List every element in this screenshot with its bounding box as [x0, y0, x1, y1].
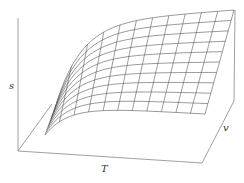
mesh-line-v [51, 52, 222, 119]
x-axis-label: T [101, 163, 108, 174]
mesh-line-v [46, 101, 208, 132]
mesh-line-v [54, 20, 231, 110]
y-axis-label: v [223, 122, 229, 133]
z-axis-label: s [9, 80, 14, 91]
y-axis-line [202, 101, 234, 163]
back-right-edge [234, 10, 235, 101]
back-left-edge [18, 104, 52, 151]
mesh-line-v [45, 110, 205, 135]
mesh-line-v [48, 82, 214, 126]
x-axis-line [18, 151, 202, 163]
surface-plot [0, 0, 244, 183]
